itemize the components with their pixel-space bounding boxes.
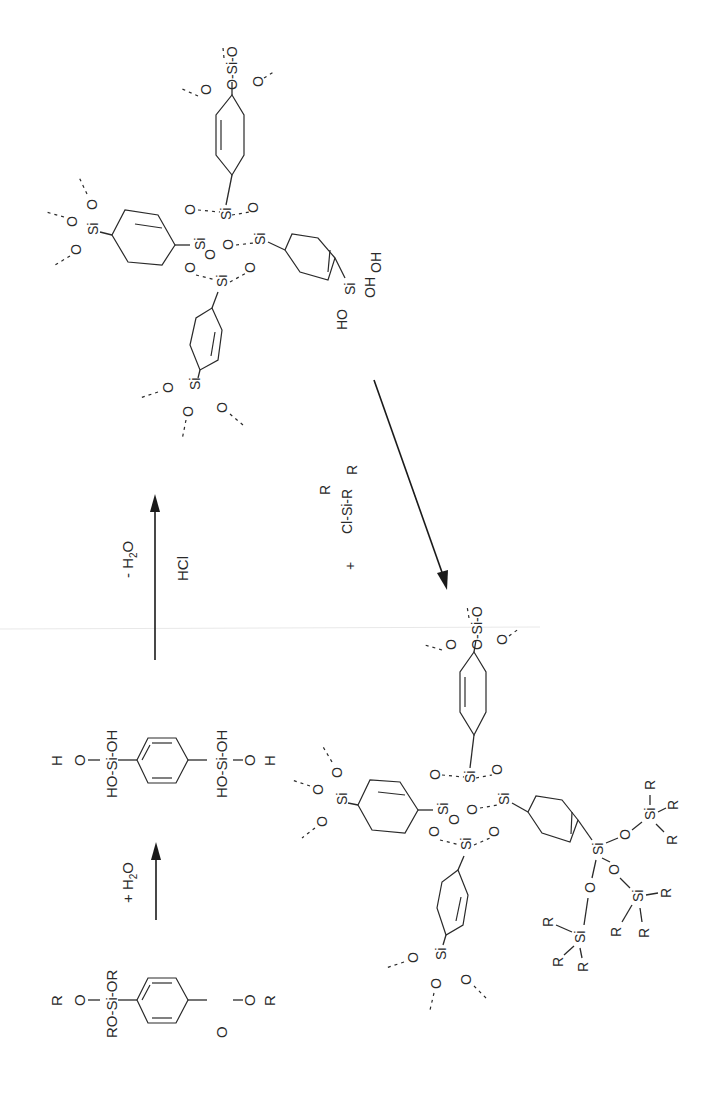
label-r-right: R <box>261 995 278 1006</box>
svg-text:R: R <box>665 800 681 810</box>
svg-text:O: O <box>84 199 100 210</box>
svg-text:R: R <box>608 927 624 937</box>
svg-text:O: O <box>182 262 198 273</box>
svg-text:O: O <box>242 262 258 273</box>
svg-text:Si: Si <box>462 771 478 783</box>
svg-text:O: O <box>405 952 421 963</box>
reaction-scheme: RO-Si-OR O R O O R + H2O <box>0 0 718 1093</box>
svg-text:O: O <box>182 204 198 215</box>
siloxane-cage: Si Si Si Si O O O O O O <box>426 764 512 850</box>
benzene-ring <box>137 978 188 1023</box>
terminal-oh-1: OH <box>362 277 378 298</box>
svg-text:O: O <box>214 402 230 413</box>
svg-text:O: O <box>180 406 196 417</box>
svg-text:O: O <box>443 639 459 650</box>
svg-text:O: O <box>160 382 176 393</box>
svg-text:O: O <box>198 84 214 95</box>
svg-text:Si: Si <box>433 948 449 960</box>
label-r-left: R <box>48 995 65 1006</box>
svg-text:O: O <box>64 216 80 227</box>
siloxane-cage: Si Si Si Si O O O O O O <box>182 202 268 287</box>
svg-text:Si: Si <box>334 793 350 805</box>
svg-text:O: O <box>68 244 84 255</box>
label-ho-si-oh-left: HO-Si-OH <box>103 730 120 798</box>
reagent-plus-water: + H2O <box>119 862 139 903</box>
svg-text:Si: Si <box>252 233 268 245</box>
svg-text:Si: Si <box>192 238 208 250</box>
label-o-left: O <box>71 754 88 766</box>
svg-text:O: O <box>245 202 261 213</box>
reagent-plus: + <box>342 562 358 570</box>
label-o-left: O <box>71 994 88 1006</box>
svg-text:O: O <box>606 864 622 875</box>
svg-text:O: O <box>428 978 444 989</box>
benzene-ring <box>112 210 175 265</box>
silanol-monomer: HO-Si-OH O H HO-Si-OH O H <box>48 730 278 798</box>
reagent-r-top: R <box>344 465 360 475</box>
label-ro-si-or-right: O <box>213 1026 230 1038</box>
svg-text:O: O <box>202 249 218 260</box>
svg-text:O-Si-O: O-Si-O <box>224 46 240 90</box>
svg-text:Si: Si <box>85 223 101 235</box>
svg-text:R: R <box>642 780 658 790</box>
svg-text:O: O <box>582 882 598 893</box>
svg-text:R: R <box>636 928 652 938</box>
svg-text:Si: Si <box>642 808 658 820</box>
benzene-ring <box>190 308 222 370</box>
svg-text:O: O <box>426 826 442 837</box>
svg-text:Si: Si <box>435 803 451 815</box>
terminal-si: Si <box>342 283 358 295</box>
svg-text:Si: Si <box>218 208 234 220</box>
benzene-ring <box>137 738 188 783</box>
benzene-ring <box>528 796 578 842</box>
silylation-arrow: R Cl-Si-R R + <box>317 380 448 590</box>
terminal-ho: HO <box>334 309 350 330</box>
svg-text:Si: Si <box>458 838 474 850</box>
network-capped: Si Si Si Si O O O O O O O-Si-O O O <box>292 606 681 1010</box>
svg-text:O: O <box>458 974 474 985</box>
label-ro-si-or-left: RO-Si-OR <box>103 970 120 1038</box>
reagent-chlorosilane: Cl-Si-R <box>339 489 355 534</box>
svg-text:R: R <box>550 957 566 967</box>
scan-artifact <box>0 627 540 629</box>
label-h-right: H <box>261 755 278 766</box>
reagent-hcl: HCl <box>174 556 191 581</box>
benzene-ring <box>460 652 486 735</box>
svg-text:O: O <box>486 826 502 837</box>
svg-text:O: O <box>494 634 510 645</box>
svg-text:O: O <box>617 829 633 840</box>
label-o-right: O <box>241 754 258 766</box>
svg-text:O: O <box>427 769 443 780</box>
network-silanol: Si Si Si Si O O O O O O O-Si-O O O <box>46 46 384 440</box>
reagent-minus-water: - H2O <box>119 541 139 578</box>
svg-text:R: R <box>575 962 591 972</box>
benzene-ring <box>216 95 244 175</box>
svg-text:O: O <box>329 767 345 778</box>
svg-text:Si: Si <box>572 931 588 943</box>
svg-text:Si: Si <box>496 793 512 805</box>
benzene-ring <box>437 870 468 935</box>
svg-text:Si: Si <box>214 275 230 287</box>
svg-text:R: R <box>658 888 674 898</box>
svg-text:O: O <box>250 76 266 87</box>
svg-text:R: R <box>664 835 680 845</box>
terminal-oh-2: OH <box>368 252 384 273</box>
svg-text:O-Si-O: O-Si-O <box>469 606 485 650</box>
benzene-ring <box>358 780 418 833</box>
svg-text:O: O <box>489 764 505 775</box>
svg-text:O: O <box>310 784 326 795</box>
condensation-arrow: - H2O HCl <box>119 494 191 660</box>
capped-si-center: Si <box>590 843 606 855</box>
svg-text:O: O <box>446 814 462 825</box>
benzene-ring <box>285 234 335 280</box>
hydrolysis-arrow: + H2O <box>119 842 161 920</box>
label-o-right: O <box>241 994 258 1006</box>
label-h-left: H <box>48 755 65 766</box>
alkoxysilane-monomer: RO-Si-OR O R O O R <box>48 970 278 1038</box>
svg-text:O: O <box>464 804 480 815</box>
svg-text:O: O <box>220 239 236 250</box>
svg-text:Si: Si <box>630 890 646 902</box>
label-ho-si-oh-right: HO-Si-OH <box>213 730 230 798</box>
reagent-r-upper: R <box>317 485 333 495</box>
svg-text:O: O <box>314 816 330 827</box>
